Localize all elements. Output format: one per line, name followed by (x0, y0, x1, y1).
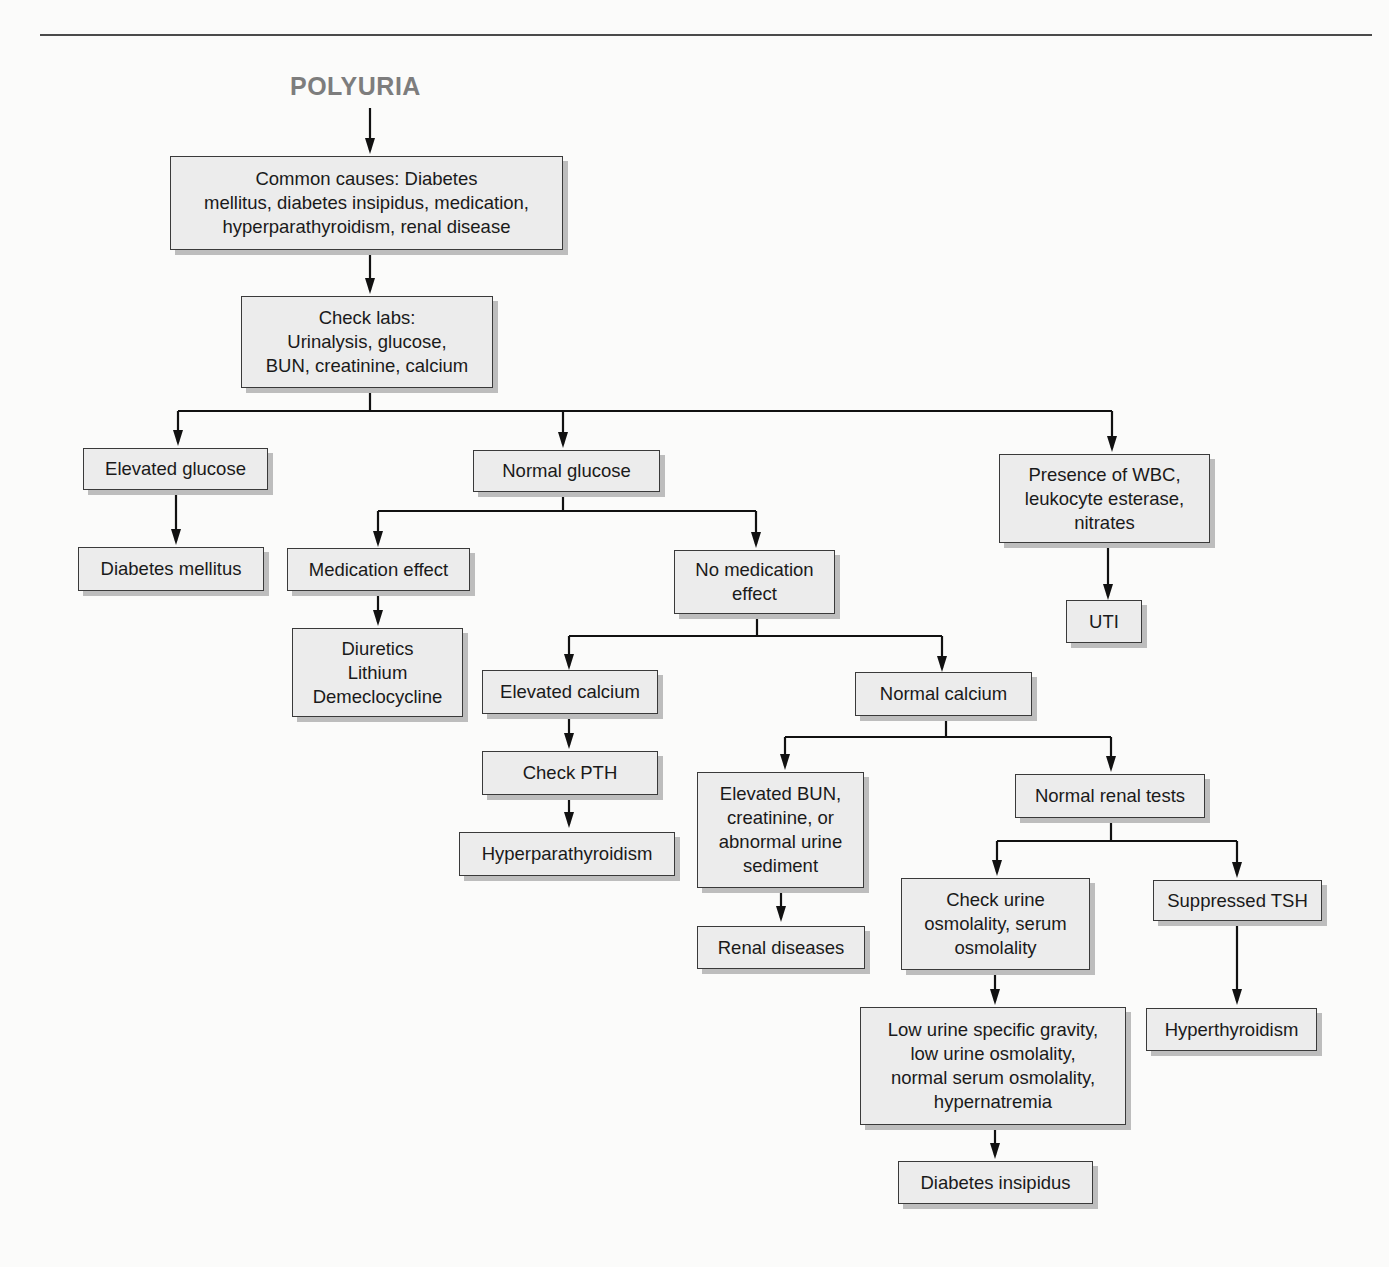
hyperthyroidism-box: Hyperthyroidism (1146, 1008, 1317, 1051)
common-causes-text: Common causes: Diabetes mellitus, diabet… (204, 167, 529, 239)
check-labs-box: Check labs: Urinalysis, glucose, BUN, cr… (241, 296, 493, 388)
wbc-box: Presence of WBC, leukocyte esterase, nit… (999, 454, 1210, 543)
hyperparathyroidism-text: Hyperparathyroidism (482, 842, 653, 866)
drugs-box: Diuretics Lithium Demeclocycline (292, 628, 463, 717)
normal-glucose-text: Normal glucose (502, 459, 631, 483)
elevated-bun-box: Elevated BUN, creatinine, or abnormal ur… (697, 772, 864, 888)
normal-renal-tests-box: Normal renal tests (1015, 774, 1205, 818)
no-medication-effect-text: No medication effect (695, 558, 813, 606)
check-osmolality-text: Check urine osmolality, serum osmolality (924, 888, 1067, 960)
check-osmolality-box: Check urine osmolality, serum osmolality (901, 878, 1090, 970)
low-specific-gravity-box: Low urine specific gravity, low urine os… (860, 1007, 1126, 1125)
normal-calcium-text: Normal calcium (880, 682, 1007, 706)
elevated-calcium-box: Elevated calcium (482, 670, 658, 714)
check-pth-box: Check PTH (482, 751, 658, 795)
hyperthyroidism-text: Hyperthyroidism (1165, 1018, 1299, 1042)
diabetes-insipidus-text: Diabetes insipidus (920, 1171, 1070, 1195)
elevated-glucose-text: Elevated glucose (105, 457, 246, 481)
suppressed-tsh-box: Suppressed TSH (1153, 880, 1322, 921)
normal-glucose-box: Normal glucose (473, 450, 660, 492)
check-labs-text: Check labs: Urinalysis, glucose, BUN, cr… (266, 306, 469, 378)
medication-effect-box: Medication effect (287, 548, 470, 591)
diabetes-mellitus-text: Diabetes mellitus (101, 557, 242, 581)
diabetes-insipidus-box: Diabetes insipidus (898, 1161, 1093, 1204)
medication-effect-text: Medication effect (309, 558, 449, 582)
elevated-glucose-box: Elevated glucose (83, 448, 268, 490)
renal-diseases-text: Renal diseases (718, 936, 845, 960)
low-specific-gravity-text: Low urine specific gravity, low urine os… (888, 1018, 1098, 1114)
wbc-text: Presence of WBC, leukocyte esterase, nit… (1025, 463, 1184, 535)
uti-text: UTI (1089, 610, 1119, 634)
hyperparathyroidism-box: Hyperparathyroidism (459, 832, 675, 876)
elevated-calcium-text: Elevated calcium (500, 680, 640, 704)
drugs-text: Diuretics Lithium Demeclocycline (313, 637, 443, 709)
check-pth-text: Check PTH (523, 761, 618, 785)
diabetes-mellitus-box: Diabetes mellitus (78, 547, 264, 591)
uti-box: UTI (1066, 600, 1142, 643)
common-causes-box: Common causes: Diabetes mellitus, diabet… (170, 156, 563, 250)
elevated-bun-text: Elevated BUN, creatinine, or abnormal ur… (719, 782, 842, 878)
normal-renal-tests-text: Normal renal tests (1035, 784, 1185, 808)
renal-diseases-box: Renal diseases (697, 926, 865, 969)
suppressed-tsh-text: Suppressed TSH (1167, 889, 1308, 913)
no-medication-effect-box: No medication effect (674, 550, 835, 614)
normal-calcium-box: Normal calcium (855, 672, 1032, 716)
